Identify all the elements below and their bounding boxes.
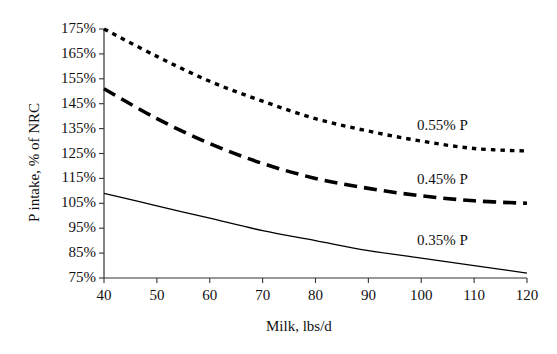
x-tick-label: 80 [294, 287, 338, 304]
x-tick-label: 60 [188, 287, 232, 304]
x-tick-label: 120 [505, 287, 549, 304]
series-label-045p: 0.45% P [417, 171, 468, 188]
chart-container: P intake, % of NRC Milk, lbs/d 0.55% P 0… [0, 0, 557, 354]
x-tick-label: 100 [399, 287, 443, 304]
y-tick-label: 175% [40, 20, 96, 37]
y-tick-label: 95% [40, 219, 96, 236]
series-label-055p: 0.55% P [417, 117, 468, 134]
x-axis-title: Milk, lbs/d [266, 318, 332, 335]
x-tick-label: 90 [346, 287, 390, 304]
x-axis-ticks [104, 278, 527, 283]
x-tick-label: 70 [241, 287, 285, 304]
y-tick-label: 155% [40, 70, 96, 87]
series-label-035p: 0.35% P [417, 232, 468, 249]
y-tick-label: 75% [40, 269, 96, 286]
y-tick-label: 115% [40, 169, 96, 186]
x-tick-label: 50 [135, 287, 179, 304]
y-tick-label: 125% [40, 145, 96, 162]
y-tick-label: 105% [40, 194, 96, 211]
y-axis-ticks [99, 29, 104, 278]
x-tick-label: 40 [82, 287, 126, 304]
y-tick-label: 145% [40, 95, 96, 112]
y-tick-label: 135% [40, 120, 96, 137]
y-tick-label: 85% [40, 244, 96, 261]
y-tick-label: 165% [40, 45, 96, 62]
x-tick-label: 110 [452, 287, 496, 304]
